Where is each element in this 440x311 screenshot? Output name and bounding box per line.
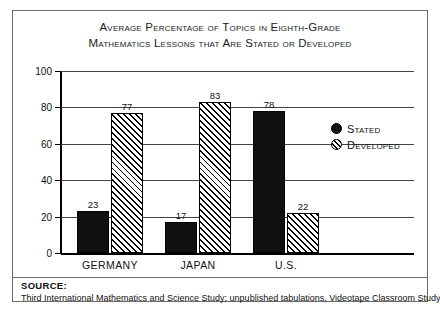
bar-japan-developed: 83 — [199, 102, 231, 253]
source-label: SOURCE: — [21, 280, 67, 291]
y-tick-mark-80 — [55, 107, 61, 108]
chart-title-line-2: Mathematics Lessons that Are Stated or D… — [13, 35, 427, 51]
y-tick-label-0: 0 — [46, 248, 52, 259]
y-tick-label-40: 40 — [41, 175, 52, 186]
bar-value-label: 23 — [88, 199, 99, 210]
y-tick-label-80: 80 — [41, 102, 52, 113]
bar-value-label: 78 — [264, 99, 275, 110]
y-tick-mark-0 — [55, 253, 61, 254]
gridline-80 — [61, 107, 414, 108]
x-category-label-japan: JAPAN — [180, 259, 215, 271]
y-axis-title: AVERAGE PERCENT OF TOPICS — [25, 0, 39, 71]
bar-japan-stated: 17 — [165, 222, 197, 253]
plot-area: 0204060801002377GERMANY1783JAPAN7822U.S. — [61, 71, 414, 253]
bar-value-label: 77 — [122, 101, 133, 112]
chart-figure: Average Percentage of Topics in Eighth-G… — [12, 10, 428, 302]
y-tick-mark-20 — [55, 217, 61, 218]
gridline-0 — [61, 253, 414, 255]
source-text: Third International Mathematics and Scie… — [21, 293, 421, 304]
y-tick-mark-60 — [55, 144, 61, 145]
legend-item-developed: Developed — [331, 137, 400, 152]
bar-value-label: 83 — [210, 90, 221, 101]
footer-divider — [13, 277, 427, 278]
legend-label-stated: Stated — [347, 123, 381, 135]
y-tick-mark-100 — [55, 71, 61, 72]
bar-us-developed: 22 — [287, 213, 319, 253]
y-tick-label-60: 60 — [41, 138, 52, 149]
legend-swatch-developed-icon — [331, 139, 342, 150]
legend-swatch-stated-icon — [331, 123, 342, 134]
y-tick-mark-40 — [55, 180, 61, 181]
plot-inner: 0204060801002377GERMANY1783JAPAN7822U.S. — [61, 71, 414, 253]
y-tick-label-20: 20 — [41, 211, 52, 222]
bar-us-stated: 78 — [253, 111, 285, 253]
legend-label-developed: Developed — [347, 139, 400, 151]
y-tick-label-100: 100 — [35, 66, 52, 77]
legend-item-stated: Stated — [331, 121, 400, 136]
gridline-100 — [61, 71, 414, 72]
x-category-label-us: U.S. — [275, 259, 297, 271]
bar-germany-stated: 23 — [77, 211, 109, 253]
bar-value-label: 17 — [176, 210, 187, 221]
chart-title: Average Percentage of Topics in Eighth-G… — [13, 19, 427, 51]
chart-legend: Stated Developed — [331, 121, 400, 153]
chart-title-line-1: Average Percentage of Topics in Eighth-G… — [13, 19, 427, 35]
bar-value-label: 22 — [298, 201, 309, 212]
x-category-label-germany: GERMANY — [82, 259, 138, 271]
bar-germany-developed: 77 — [111, 113, 143, 253]
